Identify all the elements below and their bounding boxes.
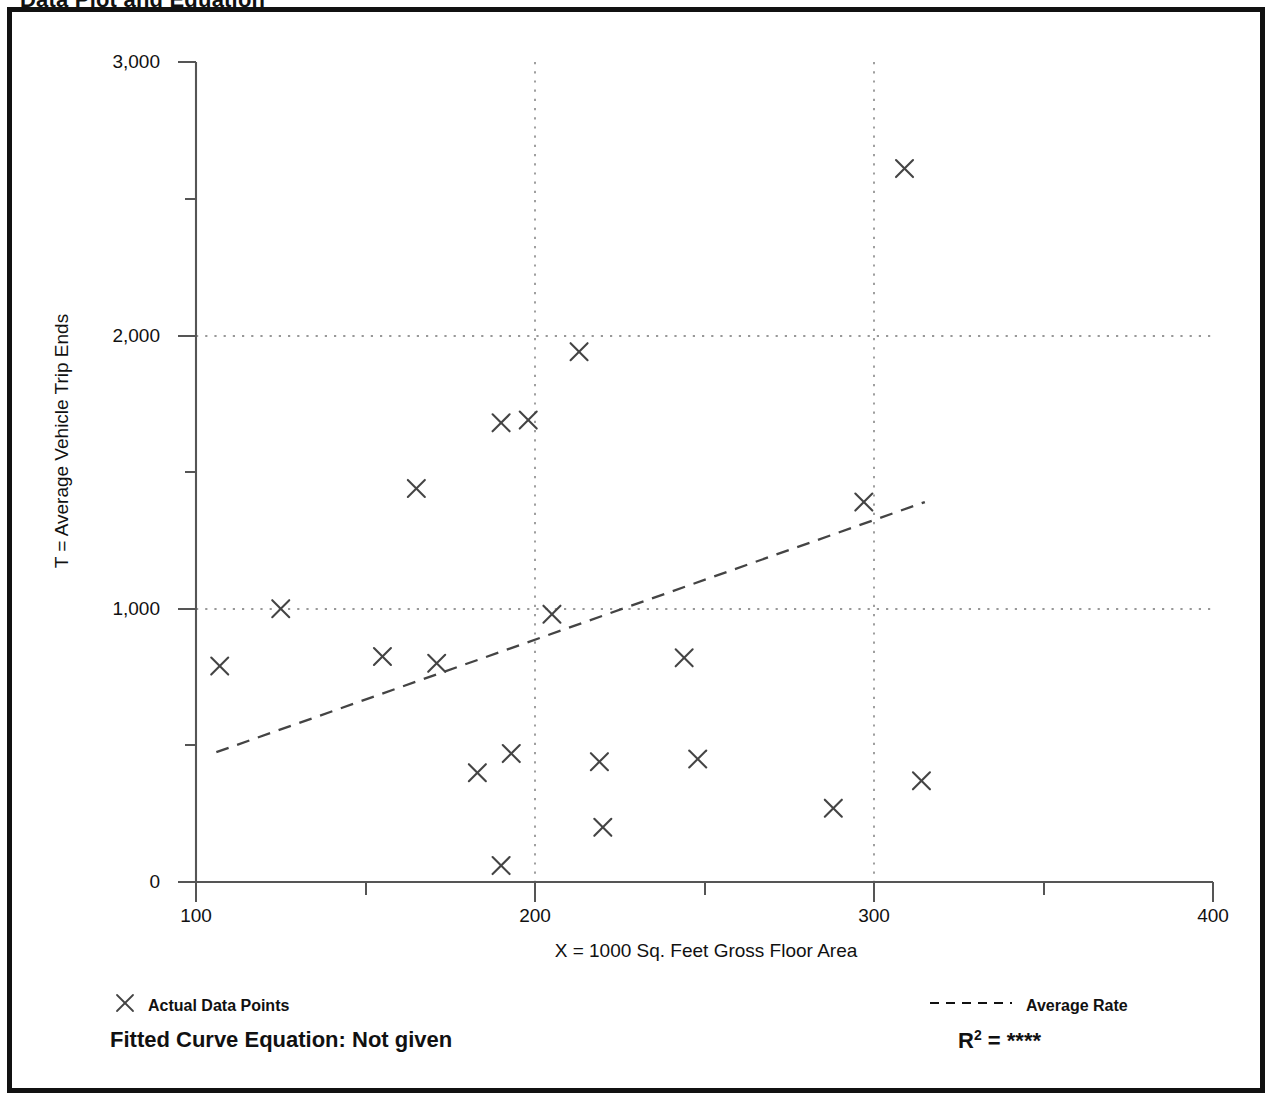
x-tick-label-100: 100 <box>156 905 236 927</box>
r2-prefix: R <box>958 1028 974 1053</box>
r2-stars: **** <box>1007 1028 1041 1053</box>
x-tick-label-200: 200 <box>495 905 575 927</box>
legend-item-average-rate: Average Rate <box>1026 997 1128 1015</box>
chart-frame <box>7 7 1265 1093</box>
fitted-curve-equation: Fitted Curve Equation: Not given <box>110 1027 452 1053</box>
y-axis-title: T = Average Vehicle Trip Ends <box>51 181 73 701</box>
x-axis-title: X = 1000 Sq. Feet Gross Floor Area <box>196 940 1216 962</box>
r-squared-value: R2 = **** <box>958 1027 1041 1054</box>
y-tick-label-0: 0 <box>50 871 160 893</box>
y-tick-label-3000: 3,000 <box>50 51 160 73</box>
legend-item-actual-data-points: Actual Data Points <box>148 997 289 1015</box>
r2-equals: = <box>982 1028 1007 1053</box>
x-tick-label-300: 300 <box>834 905 914 927</box>
r2-exponent: 2 <box>974 1027 982 1043</box>
x-tick-label-400: 400 <box>1173 905 1253 927</box>
